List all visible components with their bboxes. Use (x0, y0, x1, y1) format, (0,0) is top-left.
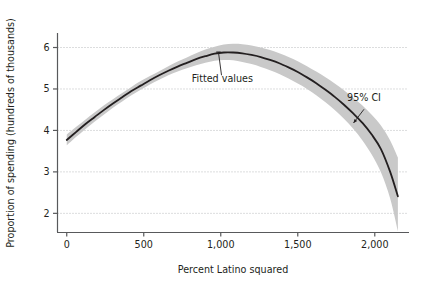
chart-canvas: 23456 05001,0001,5002,000 Fitted values9… (0, 0, 431, 287)
x-tick-label-0: 0 (64, 239, 70, 250)
y-tick-label-4: 4 (43, 125, 49, 136)
x-axis-title: Percent Latino squared (178, 264, 289, 275)
x-tick-label-500: 500 (135, 239, 153, 250)
y-axis-title: Proportion of spending (hundreds of thou… (5, 18, 16, 248)
x-tick-label-1500: 1,500 (284, 239, 311, 250)
y-tick-label-2: 2 (43, 208, 49, 219)
fitted-values-label: Fitted values (192, 73, 253, 84)
y-tick-label-3: 3 (43, 166, 49, 177)
x-tick-label-2000: 2,000 (361, 239, 388, 250)
chart-figure: 23456 05001,0001,5002,000 Fitted values9… (0, 0, 431, 287)
y-tick-label-6: 6 (43, 42, 49, 53)
y-tick-label-5: 5 (43, 83, 49, 94)
ci-annotation-label: 95% CI (347, 92, 381, 103)
x-tick-label-1000: 1,000 (207, 239, 234, 250)
